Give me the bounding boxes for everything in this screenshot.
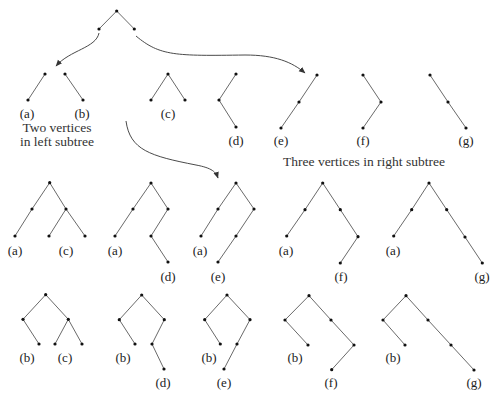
- tree-vertex: [463, 235, 466, 238]
- tree-vertex: [166, 207, 169, 210]
- tree-vertex: [379, 100, 382, 103]
- right-subtree-2: (e): [274, 73, 319, 148]
- tree-vertex: [410, 208, 413, 211]
- caption-right: Three vertices in right subtree: [283, 154, 445, 169]
- tree-edge: [55, 319, 68, 344]
- tree-vertex: [133, 342, 136, 345]
- tree-vertex: [81, 98, 84, 101]
- tree-vertex: [339, 208, 342, 211]
- tree-edge: [133, 183, 151, 209]
- tree-vertex: [216, 260, 219, 263]
- subtree-label: (c): [58, 350, 72, 365]
- subtree-label: (f): [325, 375, 338, 390]
- combined-trees-row-b: (b)(c)(b)(d)(b)(e)(b)(f)(b)(g): [19, 293, 481, 390]
- subtree-label: (a): [108, 243, 122, 258]
- tree-edge: [23, 295, 46, 320]
- tree-vertex: [235, 342, 238, 345]
- subtree-label: (f): [357, 133, 370, 148]
- arrow-to-left-subtrees: [56, 33, 99, 66]
- tree-edge: [201, 209, 218, 236]
- tree-vertex: [307, 294, 310, 297]
- tree-vertex: [329, 318, 332, 321]
- tree-vertex: [149, 181, 152, 184]
- tree-vertex: [26, 98, 29, 101]
- tree-vertex: [67, 318, 70, 321]
- tree-vertex: [403, 343, 406, 346]
- tree-edge: [46, 295, 69, 320]
- tree-edge: [363, 102, 381, 128]
- subtree-label: (e): [211, 269, 225, 284]
- tree-vertex: [64, 207, 67, 210]
- tree-edge: [219, 74, 236, 100]
- tree-vertex: [481, 261, 484, 264]
- tree-vertex: [83, 234, 86, 237]
- tree-vertex: [225, 293, 228, 296]
- tree-vertex: [37, 342, 40, 345]
- tree-edge: [285, 296, 309, 320]
- tree-edge: [309, 296, 331, 320]
- subtree-label: (d): [228, 133, 243, 148]
- tree-edge: [412, 183, 429, 210]
- tree-vertex: [428, 73, 431, 76]
- tree-vertex: [150, 342, 153, 345]
- subtree-label: (c): [59, 243, 73, 258]
- tree-edge: [428, 320, 451, 345]
- tree-vertex: [285, 234, 288, 237]
- arrow-to-right-subtrees: [136, 36, 305, 73]
- tree-vertex: [234, 72, 237, 75]
- tree-edge: [383, 296, 406, 320]
- tree-vertex: [234, 125, 237, 128]
- tree-vertex: [97, 27, 100, 30]
- tree-edge: [15, 209, 32, 236]
- tree-edge: [236, 209, 254, 236]
- tree-edge: [305, 183, 323, 210]
- tree-edge: [23, 319, 39, 344]
- tree-edge: [448, 102, 466, 128]
- subtree-label: (e): [274, 133, 288, 148]
- combined-tree-a-2: (a)(e): [193, 181, 256, 284]
- subtree-label: (b): [115, 350, 130, 365]
- subtree-label: (a): [193, 243, 207, 258]
- tree-edge: [224, 344, 237, 369]
- tree-edge: [340, 210, 358, 237]
- subtree-label: (a): [279, 243, 293, 258]
- tree-edge: [465, 237, 482, 263]
- tree-vertex: [361, 126, 364, 129]
- left-subtree-0: (a): [20, 72, 47, 121]
- tree-vertex: [472, 368, 475, 371]
- subtree-label: (b): [385, 350, 400, 365]
- tree-edge: [119, 320, 135, 344]
- tree-vertex: [404, 294, 407, 297]
- tree-vertex: [449, 343, 452, 346]
- tree-vertex: [339, 261, 342, 264]
- tree-vertex: [315, 73, 318, 76]
- tree-edge: [281, 102, 299, 128]
- tree-vertex: [133, 27, 136, 30]
- subtree-label: (d): [160, 269, 175, 284]
- tree-vertex: [216, 207, 219, 210]
- tree-edge: [430, 75, 448, 102]
- subtree-label: (d): [155, 375, 170, 390]
- subtree-label: (b): [201, 350, 216, 365]
- subtree-label: (a): [386, 243, 400, 258]
- tree-edge: [119, 295, 141, 320]
- subtree-label: (e): [217, 375, 231, 390]
- tree-vertex: [53, 342, 56, 345]
- tree-edge: [68, 319, 82, 344]
- caption-left-line2: in left subtree: [20, 134, 94, 149]
- root-pattern-tree: [97, 9, 135, 30]
- subtree-label: (b): [74, 106, 89, 121]
- subtree-label: (b): [19, 350, 34, 365]
- tree-edge: [340, 237, 358, 263]
- tree-vertex: [13, 234, 16, 237]
- right-subtree-3: (f): [357, 73, 383, 148]
- tree-vertex: [63, 72, 66, 75]
- tree-vertex: [140, 293, 143, 296]
- tree-edge: [394, 210, 412, 236]
- tree-vertex: [356, 235, 359, 238]
- tree-edge: [152, 320, 164, 344]
- tree-edge: [151, 183, 168, 209]
- tree-vertex: [163, 318, 166, 321]
- tree-edge: [205, 320, 221, 344]
- subtree-label: (g): [458, 133, 473, 148]
